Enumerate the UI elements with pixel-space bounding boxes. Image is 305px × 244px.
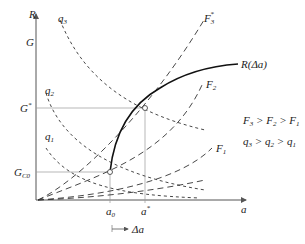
y-axis-label-g: G: [26, 36, 34, 48]
r-delta-a-curve: [110, 64, 238, 172]
y-axis-label-r: R: [28, 8, 36, 20]
f2-label: F2: [205, 78, 217, 92]
a0-label: a0: [106, 205, 116, 219]
a-star-label: a*: [141, 204, 151, 217]
q2-label: q2: [45, 84, 55, 98]
force-resistance-diagram: R G a G* GC0 a0 a* Δa F3* F2 F1 q3 q2 q1…: [0, 0, 305, 244]
q2-curve: [46, 93, 205, 190]
x-axis-label: a: [241, 203, 247, 215]
q1-curve: [46, 148, 200, 198]
r-curve-label: R(Δa): [240, 58, 267, 71]
f3-curve: [38, 20, 204, 200]
start-point-marker: [108, 170, 113, 175]
g-star-label: G*: [20, 101, 32, 114]
f1-label: F1: [215, 142, 226, 156]
delta-a-label: Δa: [131, 223, 144, 235]
legend-f-order: F3 > F2 > F1: [242, 114, 300, 128]
f1-curve: [38, 148, 212, 200]
f3-label: F3*: [203, 10, 215, 26]
legend-q-order: q3 > q2 > q1: [243, 135, 296, 149]
q1-label: q1: [45, 130, 54, 144]
q3-label: q3: [58, 12, 68, 26]
gc0-label: GC0: [14, 166, 31, 180]
q3-curve: [60, 20, 205, 130]
f0-curve: [38, 180, 205, 200]
critical-point-marker: [143, 106, 148, 111]
f2-curve: [38, 85, 202, 200]
